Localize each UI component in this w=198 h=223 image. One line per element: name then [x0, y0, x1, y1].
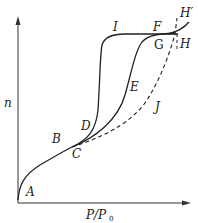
label-D: D — [80, 119, 91, 133]
label-B: B — [51, 132, 61, 146]
label-C: C — [72, 147, 81, 161]
x-axis-label: P/P — [85, 208, 107, 222]
label-H-prime: H′ — [179, 6, 193, 20]
label-H: H — [179, 37, 191, 51]
x-axis-label-subscript: 0 — [109, 215, 113, 223]
label-G: G — [154, 38, 164, 52]
y-axis-arrow-icon — [16, 16, 21, 25]
isotherm-diagram: n P/P 0 A B C D E F G H H′ I J — [0, 0, 198, 223]
y-axis-label: n — [4, 96, 12, 110]
label-I: I — [112, 20, 118, 34]
label-J: J — [152, 100, 161, 114]
x-axis-arrow-icon — [182, 201, 191, 206]
label-A: A — [25, 185, 35, 199]
label-F: F — [152, 20, 162, 34]
curve-H-prime — [168, 22, 189, 34]
label-E: E — [129, 80, 139, 94]
